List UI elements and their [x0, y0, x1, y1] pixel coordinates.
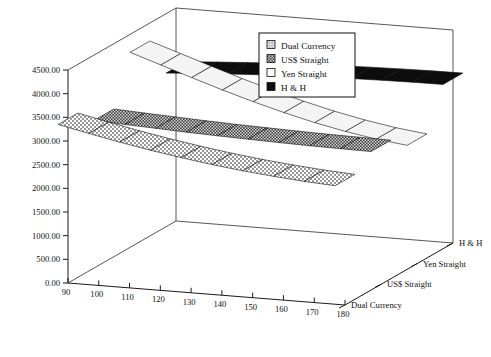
- x-tick-label: 130: [183, 297, 196, 307]
- legend-label: US$ Straight: [281, 55, 329, 65]
- legend-label: Yen Straight: [281, 69, 327, 79]
- x-tick-label: 160: [275, 304, 288, 314]
- y-tick-label: 2500.00: [32, 160, 60, 170]
- y-tick-label: 3500.00: [32, 112, 60, 122]
- x-tick-label: 110: [121, 292, 134, 302]
- legend-swatch-3: [267, 83, 275, 91]
- legend-label: H & H: [281, 83, 306, 93]
- y-tick-label: 4000.00: [32, 89, 60, 99]
- x-tick-label: 180: [337, 309, 350, 319]
- y-tick-label: 1000.00: [32, 231, 60, 241]
- z-axis-label: US$ Straight: [387, 279, 432, 289]
- legend-label: Dual Currency: [281, 41, 336, 51]
- z-axis-label: Yen Straight: [423, 259, 466, 269]
- ribbon-3d-chart: 0.00500.001000.001500.002000.002500.0030…: [0, 0, 491, 357]
- x-tick-label: 120: [152, 294, 165, 304]
- x-tick-label: 100: [90, 289, 103, 299]
- y-tick-label: 0.00: [45, 278, 60, 288]
- legend-swatch-0: [267, 41, 275, 49]
- legend-swatch-1: [267, 55, 275, 63]
- z-axis-label: H & H: [459, 238, 482, 248]
- x-tick-label: 170: [306, 307, 319, 317]
- y-tick-label: 3000.00: [32, 136, 60, 146]
- chart-container: 0.00500.001000.001500.002000.002500.0030…: [0, 0, 491, 357]
- x-tick-label: 150: [244, 302, 257, 312]
- y-tick-label: 4500.00: [32, 65, 60, 75]
- legend-swatch-2: [267, 69, 275, 77]
- chart-legend: Dual CurrencyUS$ StraightYen StraightH &…: [259, 33, 355, 97]
- y-tick-label: 1500.00: [32, 207, 60, 217]
- y-tick-label: 500.00: [36, 254, 60, 264]
- z-axis-label: Dual Currency: [351, 300, 403, 310]
- y-tick-label: 2000.00: [32, 183, 60, 193]
- x-tick-label: 140: [213, 299, 226, 309]
- x-tick-label: 90: [62, 287, 71, 297]
